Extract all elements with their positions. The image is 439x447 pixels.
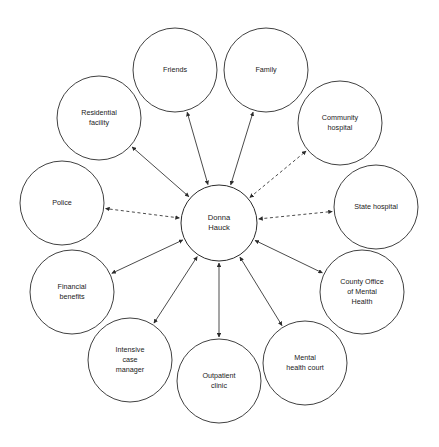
node-label-police: Police [52, 198, 72, 207]
center-node-center[interactable]: DonnaHauck [181, 185, 257, 261]
link-friends [187, 112, 208, 184]
link-community-hosp [250, 151, 306, 197]
node-family[interactable]: Family [224, 28, 308, 112]
node-label-state_hosp: State hospital [354, 202, 398, 211]
ecomap-diagram: FriendsFamilyResidentialfacilityCommunit… [0, 0, 439, 447]
node-community_hosp[interactable]: Communityhospital [298, 81, 382, 165]
node-label-mh_court: health court [286, 363, 324, 372]
link-police [106, 209, 180, 218]
node-label-community_hosp: Community [322, 113, 359, 122]
node-label-community_hosp: hospital [328, 123, 353, 132]
node-label-family: Family [255, 65, 277, 74]
node-label-mh_court: Mental [294, 353, 316, 362]
center-node-label-center: Hauck [208, 223, 230, 232]
node-label-county_office: of Mental [347, 287, 377, 296]
link-financial [112, 240, 183, 273]
link-icm [154, 257, 197, 324]
nodes-layer: FriendsFamilyResidentialfacilityCommunit… [20, 28, 418, 423]
link-mh-court [240, 257, 282, 325]
node-label-county_office: Health [352, 297, 373, 306]
node-outpatient[interactable]: Outpatientclinic [177, 339, 261, 423]
node-residential[interactable]: Residentialfacility [57, 76, 141, 160]
node-label-outpatient: Outpatient [202, 371, 235, 380]
link-county-office [255, 240, 322, 273]
ecomap-canvas: FriendsFamilyResidentialfacilityCommunit… [0, 0, 439, 447]
node-label-icm: manager [116, 365, 145, 374]
node-label-residential: Residential [81, 108, 117, 117]
node-label-residential: facility [89, 118, 109, 127]
node-friends[interactable]: Friends [133, 28, 217, 112]
node-label-icm: Intensive [116, 345, 145, 354]
node-police[interactable]: Police [20, 161, 104, 245]
node-label-icm: case [122, 355, 137, 364]
node-label-financial: benefits [59, 292, 85, 301]
node-mh_court[interactable]: Mentalhealth court [263, 321, 347, 405]
node-label-financial: Financial [58, 282, 87, 291]
link-residential [132, 147, 189, 197]
node-icm[interactable]: Intensivecasemanager [88, 318, 172, 402]
node-label-outpatient: clinic [211, 381, 227, 390]
center-node-label-center: Donna [208, 213, 231, 222]
node-state_hosp[interactable]: State hospital [334, 165, 418, 249]
node-county_office[interactable]: County Officeof MentalHealth [320, 250, 404, 334]
node-label-county_office: County Office [340, 277, 383, 286]
link-state-hosp [259, 211, 332, 218]
node-label-friends: Friends [163, 65, 187, 74]
node-financial[interactable]: Financialbenefits [30, 250, 114, 334]
link-family [231, 112, 253, 185]
